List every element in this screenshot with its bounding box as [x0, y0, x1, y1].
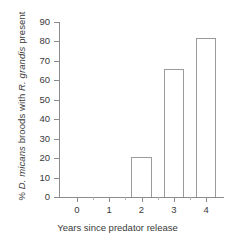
- y-tick-20: 20: [54, 158, 59, 159]
- y-tick-label-0: 0: [45, 191, 50, 202]
- y-axis-line: [59, 22, 60, 197]
- x-tick-2: 2: [142, 197, 143, 202]
- y-tick-40: 40: [54, 119, 59, 120]
- x-tick-label-1: 1: [99, 204, 119, 215]
- y-tick-label-80: 80: [39, 35, 50, 46]
- x-tick-label-0: 0: [67, 204, 87, 215]
- x-tick-label-4: 4: [196, 204, 216, 215]
- x-tick-1: 1: [109, 197, 110, 202]
- plot-area: 0102030405060708090 01234: [59, 22, 224, 197]
- y-tick-label-30: 30: [39, 133, 50, 144]
- y-axis-title-species-1: D. micans: [16, 146, 27, 189]
- x-tick-label-2: 2: [132, 204, 152, 215]
- y-tick-0: 0: [54, 197, 59, 198]
- y-tick-label-20: 20: [39, 152, 50, 163]
- y-tick-50: 50: [54, 100, 59, 101]
- y-tick-60: 60: [54, 80, 59, 81]
- x-tick-minor: [93, 197, 94, 200]
- x-tick-minor: [125, 197, 126, 200]
- x-tick-minor: [190, 197, 191, 200]
- bar-2: [131, 157, 151, 197]
- y-tick-label-50: 50: [39, 94, 50, 105]
- x-tick-4: 4: [206, 197, 207, 202]
- bar-chart-figure: % D. micans broods with R. grandis prese…: [0, 0, 235, 242]
- y-axis-title: % D. micans broods with R. grandis prese…: [16, 6, 32, 206]
- y-tick-label-60: 60: [39, 74, 50, 85]
- y-tick-label-10: 10: [39, 172, 50, 183]
- y-axis-title-species-3: R. grandis: [16, 47, 27, 91]
- bar-4: [196, 38, 216, 197]
- y-axis-title-part-2: broods with: [16, 91, 27, 146]
- y-tick-90: 90: [54, 22, 59, 23]
- x-tick-minor: [158, 197, 159, 200]
- y-axis-title-part-0: %: [16, 189, 27, 200]
- y-tick-10: 10: [54, 178, 59, 179]
- x-tick-3: 3: [174, 197, 175, 202]
- y-tick-70: 70: [54, 61, 59, 62]
- y-axis-title-part-4: present: [16, 11, 27, 46]
- y-tick-30: 30: [54, 139, 59, 140]
- y-tick-80: 80: [54, 41, 59, 42]
- x-tick-0: 0: [77, 197, 78, 202]
- y-tick-label-90: 90: [39, 16, 50, 27]
- x-axis-title: Years since predator release: [0, 222, 235, 233]
- y-tick-label-70: 70: [39, 55, 50, 66]
- y-tick-label-40: 40: [39, 113, 50, 124]
- bar-3: [164, 69, 184, 197]
- x-tick-label-3: 3: [164, 204, 184, 215]
